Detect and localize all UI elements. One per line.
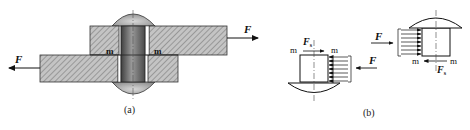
load-bracket-upper bbox=[398, 29, 401, 56]
caption-a: (a) bbox=[124, 104, 135, 116]
shear-plane-label-right: m bbox=[154, 46, 162, 56]
top-plate-left bbox=[90, 26, 119, 55]
figure-a: m m F F (a) bbox=[9, 10, 258, 116]
rivet-upper-part: F m m Fs bbox=[371, 10, 462, 76]
distributed-load-lower bbox=[329, 57, 348, 81]
m-label-lower-left: m bbox=[290, 45, 297, 55]
caption-b: (b) bbox=[363, 107, 375, 119]
bottom-plate-right bbox=[148, 55, 178, 82]
figure-b: F m m Fs F m m bbox=[288, 10, 462, 119]
force-label-right: F bbox=[243, 23, 252, 35]
shear-plane-label-left: m bbox=[106, 46, 114, 56]
force-label-lower: F bbox=[368, 54, 377, 66]
force-label-upper: F bbox=[374, 30, 383, 42]
bottom-plate-left bbox=[40, 55, 118, 82]
shear-force-label-lower: Fs bbox=[302, 36, 313, 48]
force-label-left: F bbox=[14, 53, 23, 65]
rivet-head-top bbox=[112, 14, 155, 26]
m-label-lower-right: m bbox=[331, 45, 338, 55]
m-label-upper-right: m bbox=[450, 56, 457, 66]
distributed-load-upper bbox=[401, 30, 421, 54]
load-bracket-lower bbox=[348, 56, 351, 82]
rivet-head-bottom bbox=[112, 82, 155, 94]
m-label-upper-left: m bbox=[412, 56, 419, 66]
rivet-lower-part: F m m Fs bbox=[288, 36, 377, 101]
shear-force-label-upper: Fs bbox=[436, 64, 447, 76]
rivet-shear-diagram: m m F F (a) F bbox=[0, 0, 470, 130]
